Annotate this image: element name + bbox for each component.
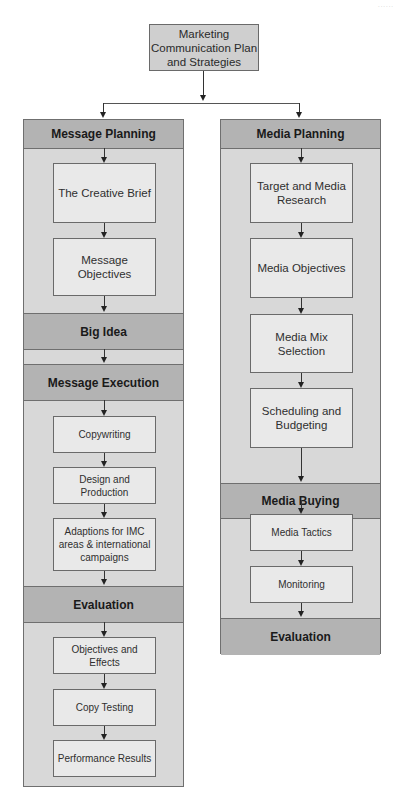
step-label: Target and Media Research [254, 179, 349, 207]
band-label: Big Idea [80, 325, 127, 339]
root-node-label: Marketing Communication Plan and Strateg… [150, 27, 258, 69]
arrow-down-icon [101, 410, 107, 416]
connector-line [104, 223, 105, 232]
connector-line [301, 373, 302, 382]
connector-line [301, 500, 302, 508]
step-copy-testing: Copy Testing [53, 689, 156, 726]
arrow-down-icon [298, 157, 304, 163]
step-label: Objectives and Effects [57, 643, 152, 669]
connector-line [301, 148, 302, 157]
step-adaptions: Adaptions for IMC areas & international … [53, 518, 156, 571]
arrow-down-icon [296, 112, 302, 118]
step-label: The Creative Brief [58, 186, 151, 200]
step-label: Copy Testing [76, 701, 134, 714]
arrow-down-icon [101, 461, 107, 467]
arrow-down-icon [101, 631, 107, 637]
step-media-objectives: Media Objectives [250, 238, 353, 298]
step-label: Message Objectives [57, 253, 152, 281]
step-label: Design and Production [57, 473, 152, 499]
step-label: Media Objectives [257, 261, 345, 275]
arrow-down-icon [298, 560, 304, 566]
connector-line [104, 504, 105, 512]
step-label: Adaptions for IMC areas & international … [57, 525, 152, 564]
band-label: Message Planning [51, 127, 156, 141]
arrow-down-icon [101, 683, 107, 689]
connector-line [104, 148, 105, 157]
arrow-down-icon [101, 157, 107, 163]
step-label: Media Tactics [271, 526, 331, 539]
band-message-planning: Message Planning [24, 120, 183, 149]
page-corner-mark: ...... [378, 2, 394, 8]
arrow-down-icon [101, 734, 107, 740]
step-copywriting: Copywriting [53, 416, 156, 453]
connector-line [203, 71, 204, 97]
connector-line [104, 571, 105, 579]
step-label: Performance Results [58, 752, 151, 765]
step-objectives-effects: Objectives and Effects [53, 637, 156, 674]
step-media-tactics: Media Tactics [250, 514, 353, 551]
connector-line [104, 453, 105, 461]
step-creative-brief: The Creative Brief [53, 163, 156, 223]
root-node: Marketing Communication Plan and Strateg… [149, 24, 259, 71]
step-target-media-research: Target and Media Research [250, 163, 353, 223]
connector-line [301, 551, 302, 560]
connector-line [301, 223, 302, 232]
step-scheduling-budgeting: Scheduling and Budgeting [250, 388, 353, 448]
connector-line [104, 349, 105, 357]
band-label: Evaluation [73, 598, 134, 612]
arrow-down-icon [100, 112, 106, 118]
arrow-down-icon [298, 508, 304, 514]
band-evaluation-left: Evaluation [24, 586, 183, 623]
arrow-down-icon [101, 306, 107, 312]
band-big-idea: Big Idea [24, 313, 183, 350]
step-message-objectives: Message Objectives [53, 238, 156, 296]
band-message-execution: Message Execution [24, 364, 183, 401]
connector-line [301, 448, 302, 476]
step-label: Scheduling and Budgeting [254, 404, 349, 432]
connector-line [104, 296, 105, 306]
arrow-down-icon [101, 232, 107, 238]
branch-line [103, 103, 300, 104]
step-label: Media Mix Selection [254, 330, 349, 358]
step-label: Monitoring [278, 578, 325, 591]
connector-line [301, 298, 302, 308]
connector-line [104, 400, 105, 410]
connector-line [104, 622, 105, 631]
band-label: Media Planning [256, 127, 344, 141]
connector-line [104, 726, 105, 734]
step-performance-results: Performance Results [53, 740, 156, 777]
arrow-down-icon [298, 232, 304, 238]
step-monitoring: Monitoring [250, 566, 353, 603]
step-design-production: Design and Production [53, 467, 156, 504]
band-label: Message Execution [48, 376, 159, 390]
step-label: Copywriting [78, 428, 130, 441]
arrow-down-icon [101, 357, 107, 363]
arrow-down-icon [298, 476, 304, 482]
band-media-planning: Media Planning [221, 120, 380, 149]
arrow-down-icon [298, 308, 304, 314]
step-media-mix-selection: Media Mix Selection [250, 314, 353, 373]
band-evaluation-right: Evaluation [221, 618, 380, 655]
arrow-down-icon [101, 579, 107, 585]
connector-line [301, 603, 302, 611]
arrow-down-icon [298, 611, 304, 617]
arrow-down-icon [200, 95, 206, 101]
arrow-down-icon [101, 512, 107, 518]
band-label: Evaluation [270, 630, 331, 644]
connector-line [104, 674, 105, 683]
arrow-down-icon [298, 382, 304, 388]
